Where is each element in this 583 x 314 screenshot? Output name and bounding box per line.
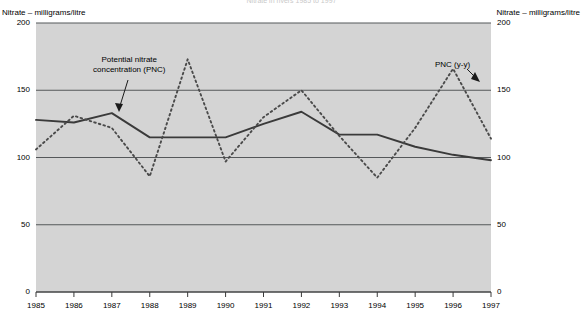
y-tick-label-right-0: 0 bbox=[497, 288, 527, 296]
x-tick-label-1994: 1994 bbox=[357, 301, 397, 310]
x-tick-label-1992: 1992 bbox=[281, 301, 321, 310]
y-tick-label-left-150: 150 bbox=[0, 86, 30, 94]
x-tick-label-1989: 1989 bbox=[168, 301, 208, 310]
annotation-pnc-line1: Potential nitrate bbox=[93, 55, 165, 65]
chart-plot-area bbox=[0, 0, 583, 314]
annotation-pnc-yy: PNC (y-y) bbox=[435, 60, 470, 70]
x-axis-ticks bbox=[36, 292, 491, 297]
x-tick-label-1986: 1986 bbox=[54, 301, 94, 310]
y-tick-label-left-100: 100 bbox=[0, 154, 30, 162]
x-tick-label-1988: 1988 bbox=[130, 301, 170, 310]
x-tick-label-1990: 1990 bbox=[206, 301, 246, 310]
annotation-pnc: Potential nitrate concentration (PNC) bbox=[93, 55, 165, 75]
x-tick-label-1991: 1991 bbox=[244, 301, 284, 310]
x-tick-label-1993: 1993 bbox=[319, 301, 359, 310]
x-tick-label-1985: 1985 bbox=[16, 301, 56, 310]
y-tick-label-left-50: 50 bbox=[0, 221, 30, 229]
y-tick-label-right-200: 200 bbox=[497, 19, 527, 27]
x-tick-label-1987: 1987 bbox=[92, 301, 132, 310]
y-tick-label-right-50: 50 bbox=[497, 221, 527, 229]
chart-container: Nitrate in rivers 1985 to 1997 Nitrate –… bbox=[0, 0, 583, 314]
y-tick-label-left-200: 200 bbox=[0, 19, 30, 27]
y-tick-label-left-0: 0 bbox=[0, 288, 30, 296]
x-tick-label-1997: 1997 bbox=[471, 301, 511, 310]
y-tick-label-right-100: 100 bbox=[497, 154, 527, 162]
x-tick-label-1995: 1995 bbox=[395, 301, 435, 310]
y-tick-label-right-150: 150 bbox=[497, 86, 527, 94]
x-tick-label-1996: 1996 bbox=[433, 301, 473, 310]
annotation-pnc-line2: concentration (PNC) bbox=[93, 65, 165, 75]
